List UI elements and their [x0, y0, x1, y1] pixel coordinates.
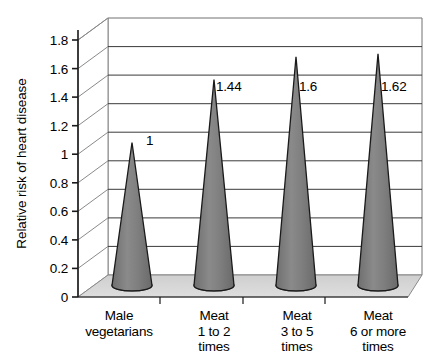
y-tick-label-0: 0 [12, 290, 68, 305]
x-category-label-meat-6-or-more-times: Meat 6 or more times [326, 308, 430, 355]
x-category-line: Male [59, 308, 179, 324]
y-tick-label-0-6: 0.6 [12, 204, 68, 219]
x-category-line: 6 or more [326, 324, 430, 340]
x-category-line: Meat [326, 308, 430, 324]
x-axis-ticks [160, 297, 325, 304]
y-tick-label-0-4: 0.4 [12, 233, 68, 248]
x-category-line: vegetarians [59, 324, 179, 340]
data-label-meat-3-to-5-times: 1.6 [299, 79, 317, 94]
cone-chart: Relative risk of heart disease 0 0.2 0.4… [0, 0, 440, 356]
y-tick-label-1-6: 1.6 [12, 62, 68, 77]
plot-left-wall [78, 18, 108, 297]
y-tick-label-1-4: 1.4 [12, 90, 68, 105]
x-category-label-male-vegetarians: Male vegetarians [59, 308, 179, 339]
y-tick-label-0-2: 0.2 [12, 261, 68, 276]
data-label-meat-1-to-2-times: 1.44 [216, 79, 241, 94]
x-category-line: times [326, 339, 430, 355]
data-label-meat-6-or-more-times: 1.62 [381, 79, 406, 94]
y-tick-label-1-2: 1.2 [12, 119, 68, 134]
y-tick-label-1-8: 1.8 [12, 33, 68, 48]
data-label-male-vegetarians: 1 [146, 133, 153, 148]
y-tick-label-1: 1 [12, 147, 68, 162]
y-axis-ticks [72, 40, 78, 297]
y-tick-label-0-8: 0.8 [12, 176, 68, 191]
